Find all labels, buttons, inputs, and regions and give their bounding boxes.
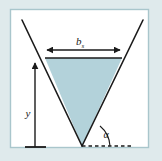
figure-container: bs y α [0, 0, 162, 161]
top-width-label-subscript: s [81, 42, 84, 50]
depth-label: y [25, 107, 31, 119]
angle-label: α [103, 129, 109, 140]
v-notch-weir-diagram: bs y α [0, 0, 162, 161]
